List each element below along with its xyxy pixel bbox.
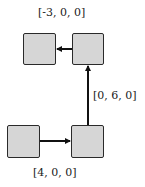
arrows-layer <box>0 0 145 187</box>
